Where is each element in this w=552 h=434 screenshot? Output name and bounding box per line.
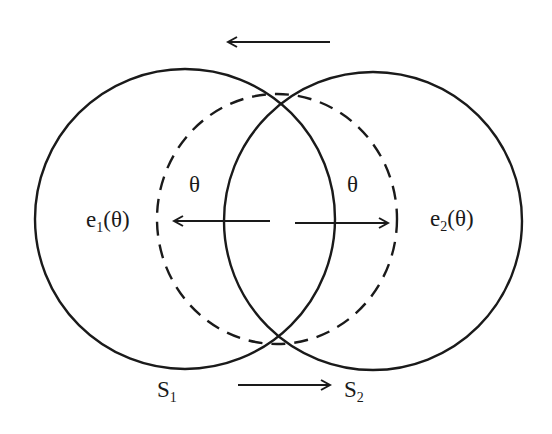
s1-base: S: [157, 377, 170, 402]
e2-base: e: [430, 206, 440, 231]
dashed-circle: [157, 94, 397, 344]
e1-argument: (θ): [103, 207, 129, 232]
s2-base: S: [344, 377, 357, 402]
theta-right-label: θ: [347, 173, 358, 196]
e2-label: e2(θ): [430, 207, 474, 234]
s1-subscript: 1: [170, 390, 177, 405]
e1-label: e1(θ): [86, 208, 130, 235]
e1-base: e: [86, 207, 96, 232]
e2-argument: (θ): [447, 206, 473, 231]
diagram-canvas: θ θ e1(θ) e2(θ) S1 S2: [0, 0, 552, 434]
s1-label: S1: [157, 378, 177, 405]
circle-s1: [35, 69, 335, 369]
s2-label: S2: [344, 378, 364, 405]
theta-left-label: θ: [189, 173, 200, 196]
s2-subscript: 2: [357, 390, 364, 405]
